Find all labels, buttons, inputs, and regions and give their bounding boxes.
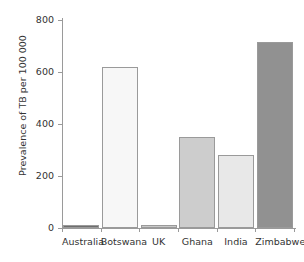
- x-axis-label-india: India: [217, 236, 256, 247]
- bar-botswana: [102, 67, 138, 228]
- bar-ghana: [179, 137, 215, 228]
- x-axis-label-zimbabwe: Zimbabwe: [255, 236, 294, 247]
- x-axis-line: [62, 228, 296, 229]
- y-tick-label: 600: [36, 66, 54, 77]
- x-tick-mark: [217, 228, 218, 232]
- y-tick-label: 800: [36, 14, 54, 25]
- x-tick-mark: [255, 228, 256, 232]
- bar-uk: [141, 225, 177, 228]
- x-axis-label-botswana: Botswana: [101, 236, 140, 247]
- bar-zimbabwe: [257, 42, 293, 228]
- bar-india: [218, 155, 254, 228]
- x-axis-label-ghana: Ghana: [178, 236, 217, 247]
- bar-australia: [63, 225, 99, 228]
- x-tick-mark: [294, 228, 295, 232]
- y-tick-label: 200: [36, 170, 54, 181]
- x-tick-mark: [62, 228, 63, 232]
- y-tick-label: 400: [36, 118, 54, 129]
- x-axis-label-uk: UK: [139, 236, 178, 247]
- y-axis-title: Prevalence of TB per 100 000: [17, 21, 28, 191]
- x-tick-mark: [139, 228, 140, 232]
- plot-area: [62, 20, 294, 228]
- bar-chart: Prevalence of TB per 100 000 02004006008…: [0, 0, 304, 262]
- y-tick-label: 0: [48, 222, 54, 233]
- x-axis-label-australia: Australia: [62, 236, 101, 247]
- x-tick-mark: [178, 228, 179, 232]
- x-tick-mark: [101, 228, 102, 232]
